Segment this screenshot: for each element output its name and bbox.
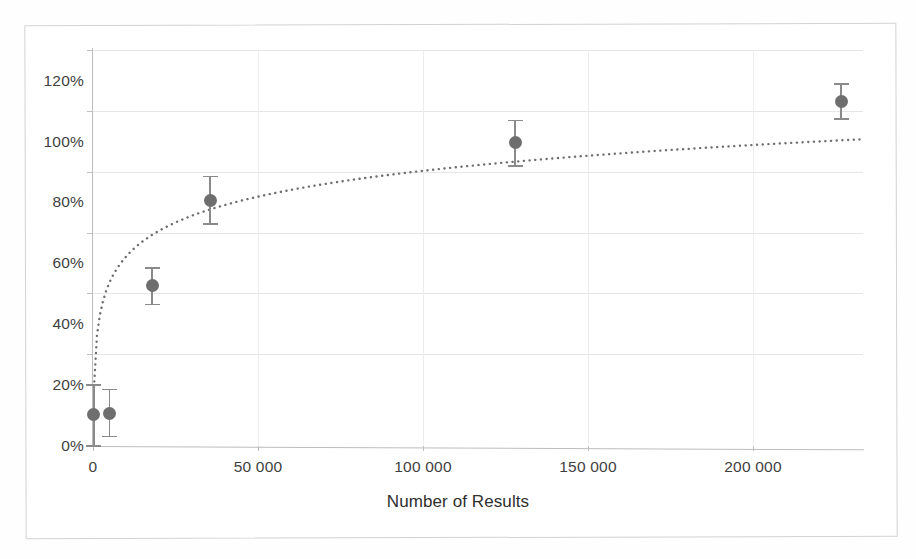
gridline-40 xyxy=(93,293,863,294)
ytick-mark-60 xyxy=(87,233,93,234)
error-bar-cap-upper xyxy=(86,384,101,386)
plot-area xyxy=(93,50,863,445)
data-point-marker[interactable] xyxy=(204,194,217,207)
xtick-label-50000: 50 000 xyxy=(234,458,283,476)
x-axis-title: Number of Results xyxy=(0,492,916,512)
gridline-120 xyxy=(93,50,863,51)
error-bar-cap-upper xyxy=(102,389,117,391)
xtick-mark-100000 xyxy=(423,446,424,451)
xtick-mark-150000 xyxy=(588,446,589,451)
error-bar-cap-lower xyxy=(508,165,523,167)
ytick-label-80: 80% xyxy=(22,193,84,211)
error-bar-cap-upper xyxy=(145,267,160,269)
vgridline-150000 xyxy=(588,50,589,445)
x-axis-ticks: 0 50 000 100 000 150 000 200 000 xyxy=(0,458,916,482)
error-bar-cap-upper xyxy=(834,83,849,85)
ytick-mark-80 xyxy=(87,172,93,173)
data-point-marker[interactable] xyxy=(103,407,116,420)
xtick-mark-200000 xyxy=(753,446,754,451)
xtick-mark-50000 xyxy=(258,446,259,451)
ytick-mark-120 xyxy=(87,50,93,51)
gridline-60 xyxy=(93,233,863,234)
ytick-label-120: 120% xyxy=(22,72,84,90)
error-bar-cap-lower xyxy=(86,445,101,447)
error-bar-cap-upper xyxy=(508,120,523,122)
gridline-20 xyxy=(93,354,863,355)
xtick-label-100000: 100 000 xyxy=(394,458,451,476)
ytick-mark-20 xyxy=(87,354,93,355)
data-point-marker[interactable] xyxy=(146,279,159,292)
vgridline-200000 xyxy=(753,50,754,445)
data-point-marker[interactable] xyxy=(509,136,522,149)
ytick-mark-40 xyxy=(87,293,93,294)
error-bar-cap-lower xyxy=(834,118,849,120)
vgridline-100000 xyxy=(423,50,424,445)
ytick-label-60: 60% xyxy=(22,254,84,272)
error-bar-cap-lower xyxy=(102,436,117,438)
ytick-mark-100 xyxy=(87,111,93,112)
xtick-mark-0 xyxy=(93,446,94,451)
error-bar-cap-lower xyxy=(145,304,160,306)
error-bar-cap-upper xyxy=(203,176,218,178)
ytick-label-20: 20% xyxy=(22,376,84,394)
gridline-100 xyxy=(93,111,863,112)
xtick-label-200000: 200 000 xyxy=(724,458,781,476)
xtick-label-0: 0 xyxy=(89,458,98,476)
vgridline-50000 xyxy=(258,50,259,445)
xtick-label-150000: 150 000 xyxy=(559,458,616,476)
ytick-label-0: 0% xyxy=(22,437,84,455)
gridline-80 xyxy=(93,172,863,173)
error-bar-cap-lower xyxy=(203,223,218,225)
figure-container: 120% 100% 80% 60% 40% 20% 0% 0 50 000 10… xyxy=(0,0,916,559)
ytick-label-40: 40% xyxy=(22,315,84,333)
ytick-label-100: 100% xyxy=(22,133,84,151)
data-point-marker[interactable] xyxy=(835,95,848,108)
